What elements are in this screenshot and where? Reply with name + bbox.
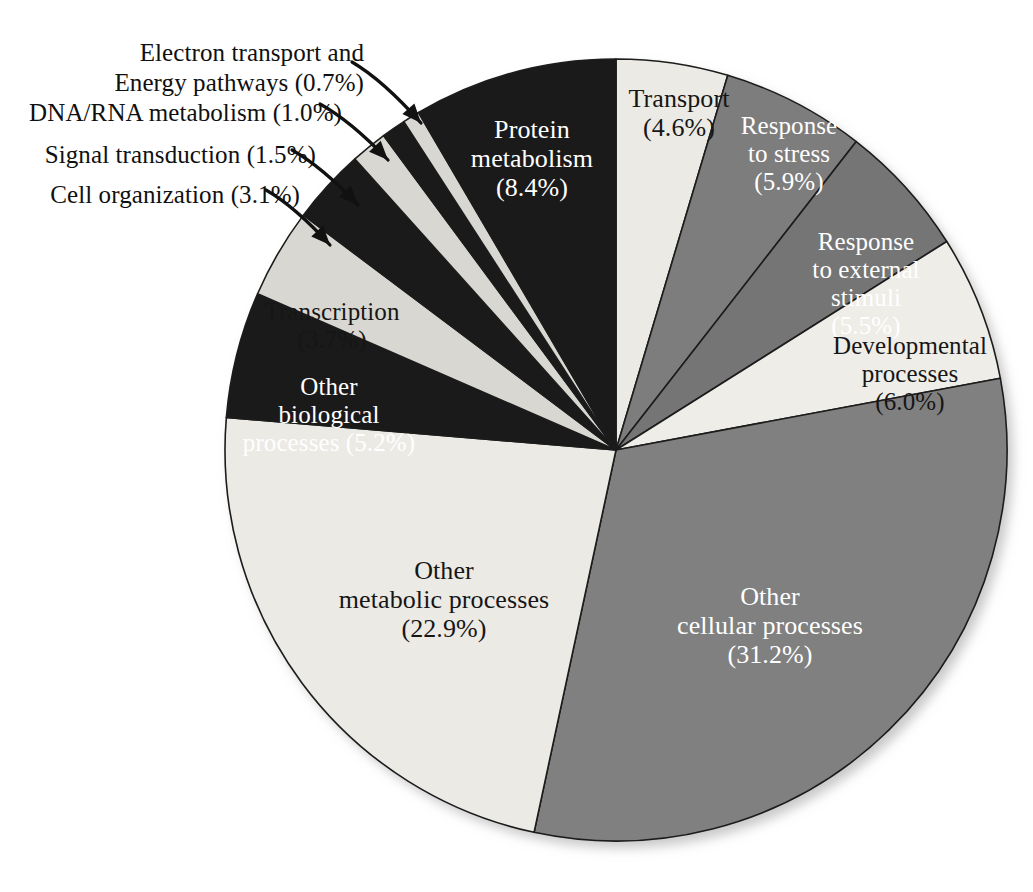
pie-chart-figure: Transport (4.6%) Response to stress (5.9… — [0, 0, 1033, 892]
pie-slices-group — [225, 59, 1007, 841]
pie-chart-svg — [0, 0, 1033, 892]
callout-label-cell-organization: Cell organization (3.1%) — [10, 180, 300, 210]
callout-label-signal-transduction: Signal transduction (1.5%) — [24, 140, 316, 170]
callout-label-dna-rna-metabolism: DNA/RNA metabolism (1.0%) — [24, 98, 342, 128]
callout-label-electron-transport-energy-pathways: Electron transport and Energy pathways (… — [72, 38, 364, 97]
